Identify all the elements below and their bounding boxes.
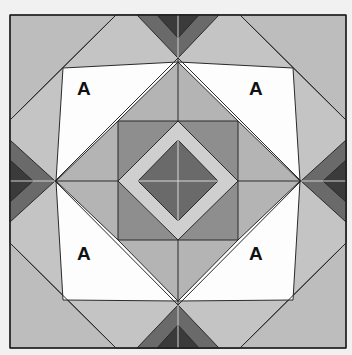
label-a-top-right: A bbox=[249, 78, 263, 100]
label-a-top-left: A bbox=[77, 78, 91, 100]
quilt-block-diagram: A A A A bbox=[0, 0, 352, 355]
label-a-bottom-left: A bbox=[77, 243, 91, 265]
label-a-bottom-right: A bbox=[249, 243, 263, 265]
quilt-block-svg bbox=[0, 0, 352, 355]
